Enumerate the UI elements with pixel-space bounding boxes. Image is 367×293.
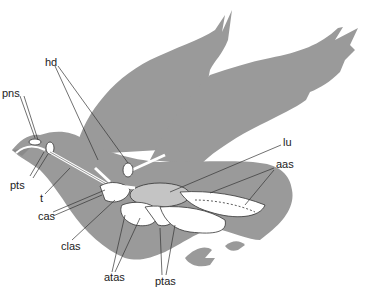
label-pns: pns <box>2 88 20 99</box>
label-clas: clas <box>61 241 81 252</box>
label-cas: cas <box>38 211 55 222</box>
label-lu: lu <box>283 137 292 148</box>
label-t: t <box>40 193 43 204</box>
label-aas: aas <box>276 159 294 170</box>
label-ptas: ptas <box>155 276 176 287</box>
label-atas: atas <box>104 272 125 283</box>
label-pts: pts <box>10 180 25 191</box>
label-hd: hd <box>45 57 57 68</box>
bird-respiratory-diagram <box>0 0 367 293</box>
